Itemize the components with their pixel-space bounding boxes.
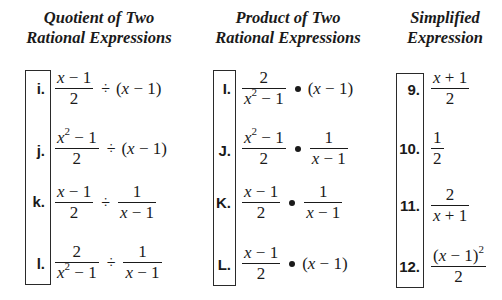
expr-10: 12 bbox=[429, 128, 446, 169]
expr-L: x − 12 (x − 1) bbox=[240, 243, 348, 284]
expr-l: 2x2 − 1 ÷ 1x − 1 bbox=[53, 242, 164, 283]
multiply-dot-icon bbox=[295, 146, 301, 152]
label-K: K. bbox=[214, 194, 231, 211]
quotient-label-box bbox=[25, 70, 51, 285]
expr-i: x − 12 ÷(x − 1) bbox=[53, 68, 161, 109]
label-l: l. bbox=[27, 255, 45, 272]
heading-simplified-line2: Expression bbox=[390, 28, 500, 48]
label-10: 10. bbox=[396, 140, 420, 157]
expr-11: 2x + 1 bbox=[429, 185, 471, 226]
expr-j: x2 − 12 ÷(x − 1) bbox=[53, 128, 167, 169]
label-11: 11. bbox=[396, 197, 420, 214]
expr-9: x + 12 bbox=[429, 68, 471, 109]
heading-quotient-line1: Quotient of Two bbox=[14, 8, 184, 28]
heading-product: Product of Two Rational Expressions bbox=[200, 8, 376, 48]
label-J: J. bbox=[214, 142, 231, 159]
simplified-label-box bbox=[396, 73, 424, 288]
heading-product-line1: Product of Two bbox=[200, 8, 376, 28]
expr-J: x2 − 12 1x − 1 bbox=[240, 128, 350, 169]
label-k: k. bbox=[27, 193, 45, 210]
expr-K: x − 12 1x − 1 bbox=[240, 182, 344, 223]
expr-k: x − 12 ÷ 1x − 1 bbox=[53, 182, 158, 223]
label-L: L. bbox=[214, 256, 231, 273]
expr-12: (x − 1)22 bbox=[429, 246, 488, 287]
heading-simplified: Simplified Expression bbox=[390, 8, 500, 48]
product-label-box bbox=[213, 70, 236, 286]
heading-product-line2: Rational Expressions bbox=[200, 28, 376, 48]
heading-quotient-line2: Rational Expressions bbox=[14, 28, 184, 48]
label-j: j. bbox=[27, 142, 45, 159]
expr-I: 2x2 − 1 (x − 1) bbox=[240, 68, 353, 109]
multiply-dot-icon bbox=[289, 261, 295, 267]
label-12: 12. bbox=[396, 258, 420, 275]
heading-simplified-line1: Simplified bbox=[390, 8, 500, 28]
label-9: 9. bbox=[396, 81, 420, 98]
label-i: i. bbox=[27, 80, 45, 97]
multiply-dot-icon bbox=[295, 86, 301, 92]
multiply-dot-icon bbox=[289, 200, 295, 206]
label-I: I. bbox=[214, 80, 231, 97]
heading-quotient: Quotient of Two Rational Expressions bbox=[14, 8, 184, 48]
